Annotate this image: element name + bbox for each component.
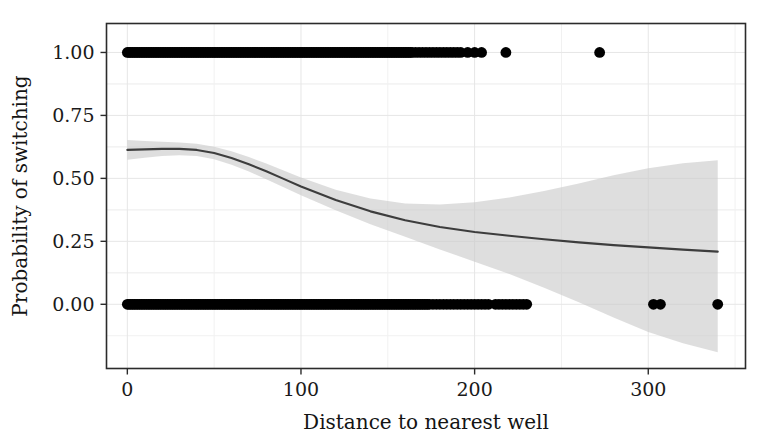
data-point bbox=[500, 47, 511, 58]
y-tick-label: 0.25 bbox=[52, 230, 94, 252]
x-tick-label: 300 bbox=[630, 378, 666, 400]
y-axis-title: Probability of switching bbox=[8, 75, 32, 316]
data-point bbox=[476, 47, 487, 58]
x-axis-title: Distance to nearest well bbox=[303, 410, 549, 434]
data-point bbox=[594, 47, 605, 58]
data-point bbox=[521, 299, 532, 310]
scatter-plot-svg: 0100200300 1.000.750.500.250.00 Distance… bbox=[0, 0, 774, 444]
data-point bbox=[712, 299, 723, 310]
x-tick-label: 200 bbox=[456, 378, 492, 400]
figure-container: 0100200300 1.000.750.500.250.00 Distance… bbox=[0, 0, 774, 444]
x-tick-label: 0 bbox=[121, 378, 133, 400]
y-tick-label: 0.50 bbox=[52, 167, 94, 189]
y-tick-label: 0.00 bbox=[52, 293, 94, 315]
y-tick-label: 0.75 bbox=[52, 104, 94, 126]
x-tick-label: 100 bbox=[283, 378, 319, 400]
y-tick-label: 1.00 bbox=[52, 41, 94, 63]
data-point bbox=[655, 299, 666, 310]
